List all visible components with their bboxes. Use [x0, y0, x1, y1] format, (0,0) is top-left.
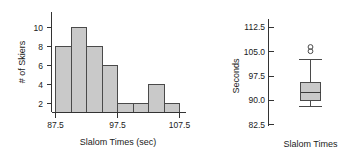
histogram-bar: [56, 46, 72, 112]
histogram-bars: [56, 27, 180, 112]
y-tick-group: [47, 28, 52, 104]
histogram-bar: [118, 103, 134, 113]
boxplot-glyph: [299, 45, 322, 107]
histogram-bar: [71, 27, 87, 112]
y-tick-label-2: 2: [38, 99, 43, 109]
x-tick-label-97-5: 97.5: [109, 120, 126, 130]
y-axis-title: Seconds: [231, 58, 241, 94]
statistics-figure: 2 4 6 8 10 # of Skiers: [0, 0, 359, 165]
boxplot-panel: 82.5 90.0 97.5 105.0 112.5 Seconds Slalo…: [192, 0, 359, 165]
histogram-bar: [102, 65, 118, 112]
histogram-y-axis: 2 4 6 8 10 # of Skiers: [17, 12, 52, 112]
y-tick-label-112-5: 112.5: [244, 22, 265, 32]
histogram-bar: [87, 46, 103, 112]
boxplot-svg: 82.5 90.0 97.5 105.0 112.5 Seconds Slalo…: [192, 0, 359, 165]
histogram-bar: [149, 84, 165, 112]
x-axis-title: Slalom Times (sec): [80, 137, 157, 147]
y-tick-label-10: 10: [34, 23, 44, 33]
histogram-bar: [133, 103, 149, 113]
boxplot-x-axis: Slalom Times: [283, 139, 338, 149]
y-axis-title: # of Skiers: [17, 40, 27, 83]
y-tick-label-82-5: 82.5: [248, 120, 265, 130]
y-tick-label-90-0: 90.0: [248, 95, 265, 105]
histogram-panel: 2 4 6 8 10 # of Skiers: [0, 0, 192, 165]
histogram-svg: 2 4 6 8 10 # of Skiers: [0, 0, 192, 165]
x-tick-label-107-5: 107.5: [169, 120, 191, 130]
y-tick-label-4: 4: [38, 80, 43, 90]
y-tick-label-105-0: 105.0: [244, 47, 266, 57]
histogram-bar: [164, 103, 180, 113]
y-tick-label-8: 8: [38, 42, 43, 52]
x-tick-label-87-5: 87.5: [47, 120, 64, 130]
histogram-x-axis: 87.5 97.5 107.5 Slalom Times (sec): [47, 113, 190, 148]
y-tick-label-6: 6: [38, 61, 43, 71]
boxplot-y-axis: 82.5 90.0 97.5 105.0 112.5 Seconds: [231, 19, 274, 130]
y-tick-label-97-5: 97.5: [248, 71, 265, 81]
x-axis-category-label: Slalom Times: [283, 139, 338, 149]
box-iqr-rect: [301, 82, 321, 100]
